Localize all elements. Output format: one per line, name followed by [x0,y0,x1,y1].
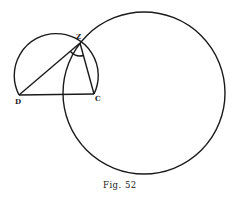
figure-caption: Fig. 52 [103,180,137,190]
label-d: D [15,97,21,106]
segment-zc [80,43,94,94]
large-circle [63,12,225,174]
segment-dz [19,43,80,95]
label-c: C [95,94,101,103]
segment-dc [19,94,94,95]
label-z: Z [76,32,81,41]
geometry-figure: Z D C Fig. 52 [0,0,238,199]
